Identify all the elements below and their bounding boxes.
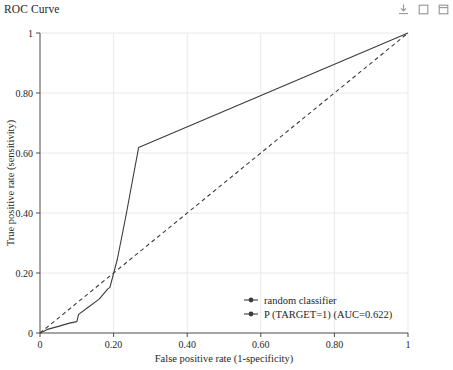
- chart-axis-titles: False positive rate (1-specificity)True …: [5, 119, 294, 365]
- svg-text:0.40: 0.40: [178, 339, 196, 350]
- svg-text:0.20: 0.20: [105, 339, 123, 350]
- x-axis-title: False positive rate (1-specificity): [155, 353, 294, 365]
- svg-text:0.80: 0.80: [16, 88, 34, 99]
- svg-text:P (TARGET=1) (AUC=0.622): P (TARGET=1) (AUC=0.622): [264, 309, 393, 321]
- chart-legend: random classifierP (TARGET=1) (AUC=0.622…: [244, 295, 393, 321]
- svg-text:0.60: 0.60: [252, 339, 270, 350]
- chart-tick-labels: 00.200.400.600.80100.200.400.600.801: [16, 28, 411, 351]
- y-axis-title: True positive rate (sensitivity): [5, 119, 17, 246]
- chart-series: [40, 33, 408, 333]
- svg-text:0.60: 0.60: [16, 148, 34, 159]
- series-0: [40, 33, 408, 333]
- legend-item-1: P (TARGET=1) (AUC=0.622): [244, 309, 393, 321]
- svg-text:0.80: 0.80: [326, 339, 344, 350]
- svg-text:0: 0: [38, 339, 43, 350]
- svg-text:0: 0: [28, 328, 33, 339]
- svg-text:1: 1: [406, 339, 411, 350]
- legend-item-0: random classifier: [244, 295, 337, 306]
- svg-text:random classifier: random classifier: [264, 295, 337, 306]
- svg-text:0.40: 0.40: [16, 208, 34, 219]
- svg-text:0.20: 0.20: [16, 268, 34, 279]
- roc-curve-panel: ROC Curve 00.200.400.600.80100.200.400.6: [0, 0, 453, 370]
- chart-canvas: 00.200.400.600.80100.200.400.600.801 Fal…: [0, 0, 453, 370]
- svg-text:1: 1: [28, 28, 33, 39]
